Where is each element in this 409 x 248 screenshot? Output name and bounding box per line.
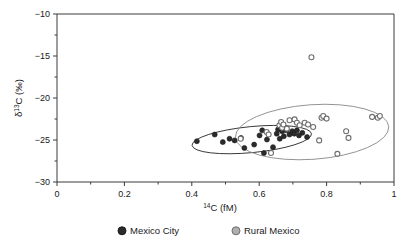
series-mexico-city xyxy=(194,127,309,156)
data-points xyxy=(194,55,382,157)
x-axis-title: 14C (fM) xyxy=(203,202,237,214)
x-axis-tick-labels: 00.20.40.60.81 xyxy=(54,189,396,199)
plot-frame xyxy=(57,14,394,182)
legend-label-mexico-city: Mexico City xyxy=(130,225,179,236)
data-point xyxy=(324,116,329,121)
data-point xyxy=(266,132,271,137)
data-point xyxy=(305,135,310,140)
data-point xyxy=(281,134,286,139)
data-point xyxy=(232,138,237,143)
data-point xyxy=(194,139,199,144)
chart-legend: Mexico CityRural Mexico xyxy=(118,225,299,236)
x-tick-label: 0.6 xyxy=(253,189,266,199)
data-point xyxy=(344,129,349,134)
x-tick-label: 0 xyxy=(54,189,59,199)
data-point xyxy=(317,138,322,143)
data-point xyxy=(346,135,351,140)
data-point xyxy=(238,136,243,141)
x-tick-label: 1 xyxy=(391,189,396,199)
y-axis-title: δ13C (‰) xyxy=(13,79,25,117)
confidence-ellipse xyxy=(234,99,391,164)
scatter-chart-figure: −10−15−20−25−30 00.20.40.60.81 δ13C (‰) … xyxy=(0,0,409,248)
data-point xyxy=(264,137,269,142)
legend-marker-rural-mexico xyxy=(232,227,240,235)
x-tick-label: 0.4 xyxy=(186,189,199,199)
series-rural-mexico xyxy=(238,55,382,157)
data-point xyxy=(261,151,266,156)
data-point xyxy=(268,151,273,156)
y-tick-label: −30 xyxy=(35,177,50,187)
y-tick-label: −20 xyxy=(35,93,50,103)
data-point xyxy=(306,122,311,127)
y-axis-ticks xyxy=(53,14,57,182)
data-point xyxy=(242,145,247,150)
data-point xyxy=(252,142,257,147)
data-point xyxy=(271,145,276,150)
data-point xyxy=(300,130,305,135)
data-point xyxy=(294,128,299,133)
y-tick-label: −25 xyxy=(35,135,50,145)
y-tick-label: −15 xyxy=(35,51,50,61)
legend-label-rural-mexico: Rural Mexico xyxy=(244,225,299,236)
data-point xyxy=(227,136,232,141)
data-point xyxy=(297,123,302,128)
data-point xyxy=(220,140,225,145)
chart-canvas: −10−15−20−25−30 00.20.40.60.81 δ13C (‰) … xyxy=(0,0,409,248)
data-point xyxy=(287,118,292,123)
svg-text:δ13C (‰): δ13C (‰) xyxy=(13,79,25,117)
data-point xyxy=(212,132,217,137)
y-axis-tick-labels: −10−15−20−25−30 xyxy=(35,9,50,187)
data-point xyxy=(257,133,262,138)
data-point xyxy=(284,126,289,131)
y-tick-label: −10 xyxy=(35,9,50,19)
legend-marker-mexico-city xyxy=(118,227,126,235)
svg-text:14C (fM): 14C (fM) xyxy=(203,202,237,214)
x-tick-label: 0.2 xyxy=(118,189,131,199)
x-tick-label: 0.8 xyxy=(320,189,333,199)
data-point xyxy=(335,151,340,156)
data-point xyxy=(309,55,314,60)
data-point xyxy=(377,114,382,119)
data-point xyxy=(311,124,316,129)
data-point xyxy=(370,114,375,119)
